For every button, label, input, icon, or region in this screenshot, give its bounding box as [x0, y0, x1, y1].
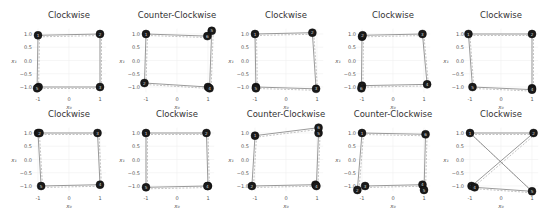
- x-tick-label: 0: [284, 96, 287, 102]
- figure-grid: Clockwise1.00.50.0−0.5−1.0x₁-101x₀12345C…: [0, 0, 541, 219]
- y-axis-label: x₁: [118, 58, 124, 64]
- y-tick-label: 0.0: [348, 58, 356, 64]
- y-tick-label: −1.0: [20, 84, 32, 90]
- subplot-2: Clockwise1.00.50.0−0.5−1.0x₁-101x₀12345: [227, 10, 323, 110]
- point-label: 4: [315, 184, 318, 189]
- subplot-6: Clockwise1.00.50.0−0.5−1.0x₁-101x₀12345: [118, 109, 214, 209]
- x-tick-label: 1: [530, 195, 533, 201]
- x-tick-label: 1: [315, 195, 318, 201]
- y-tick-label: 0.5: [24, 143, 32, 149]
- subplot-title: Clockwise: [265, 10, 307, 20]
- y-tick-label: −0.5: [344, 71, 356, 77]
- point-label: 3: [99, 85, 102, 90]
- y-tick-label: 1.0: [456, 130, 464, 136]
- y-tick-label: 0.5: [24, 44, 32, 50]
- point-label: 2: [143, 81, 146, 86]
- x-axis-label: x₀: [65, 203, 72, 209]
- x-tick-label: 1: [206, 96, 209, 102]
- trajectory-dashed-line: [367, 186, 424, 187]
- point-label: 1: [145, 32, 148, 37]
- x-tick-label: 0: [499, 195, 502, 201]
- x-axis-label: x₀: [497, 203, 504, 209]
- trajectory-dashed-line: [364, 36, 424, 37]
- x-tick-label: 1: [98, 96, 101, 102]
- y-tick-label: 0.0: [456, 58, 464, 64]
- y-tick-label: −0.5: [128, 170, 140, 176]
- y-tick-label: 0.0: [241, 157, 249, 163]
- point-label: 3: [96, 131, 99, 136]
- point-label: 4: [473, 185, 476, 190]
- point-label: 2: [251, 184, 254, 189]
- y-axis-label: x₁: [442, 58, 448, 64]
- trajectory-dashed-line: [43, 186, 102, 187]
- trajectory-line: [362, 84, 427, 85]
- y-tick-label: −0.5: [128, 71, 140, 77]
- y-axis-label: x₁: [10, 58, 16, 64]
- x-tick-label: -1: [253, 96, 258, 102]
- x-tick-label: 1: [206, 195, 209, 201]
- trajectory-line: [255, 128, 319, 136]
- y-axis-label: x₁: [118, 157, 124, 163]
- x-tick-label: 0: [284, 195, 287, 201]
- y-tick-label: 1.0: [24, 31, 32, 37]
- point-label: 6: [317, 125, 320, 130]
- y-tick-label: 0.5: [456, 143, 464, 149]
- point-label: 2: [99, 32, 102, 37]
- x-tick-label: 0: [67, 195, 70, 201]
- y-axis-label: x₁: [227, 58, 233, 64]
- trajectory-dashed-line: [40, 36, 102, 37]
- point-label: 4: [531, 87, 534, 92]
- point-label: 3: [315, 86, 318, 91]
- y-tick-label: 1.0: [24, 130, 32, 136]
- trajectory-dashed-line: [40, 135, 43, 188]
- trajectory-line: [422, 34, 427, 84]
- y-tick-label: 0.5: [241, 44, 249, 50]
- y-tick-label: 1.0: [348, 31, 356, 37]
- point-label: 5: [531, 189, 534, 194]
- x-tick-label: 1: [530, 96, 533, 102]
- point-label: 3: [364, 184, 367, 189]
- point-label: 5: [145, 185, 148, 190]
- x-tick-label: -1: [468, 96, 473, 102]
- trajectory-dashed-line: [253, 186, 317, 187]
- point-label: 1: [254, 133, 257, 138]
- x-tick-label: 1: [315, 96, 318, 102]
- subplot-4: Clockwise1.00.50.0−0.5−1.0x₁-101x₀12345: [442, 10, 538, 110]
- trajectory-dashed-line: [148, 188, 209, 189]
- point-label: 5: [423, 188, 426, 193]
- subplot-9: Clockwise1.00.50.0−0.5−1.0x₁-101x₀12345: [442, 109, 538, 209]
- point-label: 5: [210, 28, 213, 33]
- subplot-title: Clockwise: [48, 109, 90, 119]
- y-tick-label: −1.0: [237, 183, 249, 189]
- point-label: 1: [37, 33, 40, 38]
- subplot-5: Clockwise1.00.50.0−0.5−1.0x₁-101x₀12345: [10, 109, 106, 209]
- trajectory-dashed-line: [39, 37, 40, 90]
- subplot-title: Clockwise: [480, 109, 522, 119]
- point-label: 4: [99, 182, 102, 187]
- x-tick-label: -1: [360, 195, 365, 201]
- point-label: 4: [426, 82, 429, 87]
- trajectory-dashed-line: [364, 135, 428, 136]
- trajectory-dashed-line: [257, 36, 258, 90]
- trajectory-dashed-line: [257, 34, 314, 35]
- subplot-title: Counter-Clockwise: [354, 109, 433, 119]
- y-tick-label: −0.5: [452, 71, 464, 77]
- point-label: 2: [532, 131, 535, 136]
- y-tick-label: −1.0: [237, 84, 249, 90]
- trajectory-dashed-line: [474, 89, 534, 92]
- x-tick-label: -1: [36, 195, 41, 201]
- y-tick-label: 0.5: [132, 143, 140, 149]
- x-tick-label: 0: [67, 96, 70, 102]
- subplot-title: Clockwise: [480, 10, 522, 20]
- y-tick-label: −0.5: [20, 170, 32, 176]
- subplot-7: Counter-Clockwise1.00.50.0−0.5−1.0x₁-101…: [227, 109, 325, 209]
- point-label: 5: [471, 85, 474, 90]
- x-tick-label: 0: [175, 195, 178, 201]
- x-tick-label: -1: [468, 195, 473, 201]
- subplot-title: Clockwise: [372, 10, 414, 20]
- y-tick-label: 0.0: [456, 157, 464, 163]
- x-tick-label: 1: [98, 195, 101, 201]
- x-tick-label: -1: [360, 96, 365, 102]
- y-tick-label: −0.5: [452, 170, 464, 176]
- y-tick-label: −1.0: [20, 183, 32, 189]
